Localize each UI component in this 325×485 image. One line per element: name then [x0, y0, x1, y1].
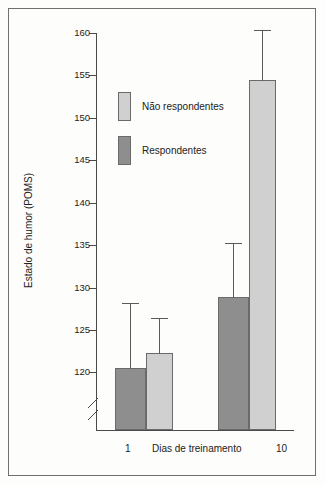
x-axis-title: Dias de treinamento: [152, 443, 242, 454]
y-tick-mark-130: [89, 288, 96, 289]
error-bar-cap-respondentes-day10: [225, 243, 242, 244]
y-tick-mark-145: [89, 160, 96, 161]
figure-container: 160 155 150 145 140 135 130 125 120 Esta…: [0, 0, 325, 485]
y-tick-label-155: 155: [56, 70, 90, 80]
x-tick-label-day1: 1: [125, 443, 131, 454]
axis-break-icon: [85, 396, 109, 422]
y-tick-label-130: 130: [56, 283, 90, 293]
bar-nao-respondentes-day1[interactable]: [146, 353, 173, 430]
error-bar-line-respondentes-day10: [233, 243, 234, 298]
y-tick-label-135: 135: [56, 240, 90, 250]
y-tick-mark-140: [89, 203, 96, 204]
x-tick-label-day10: 10: [276, 443, 287, 454]
legend-swatch-nao-respondentes: [118, 92, 131, 121]
y-tick-mark-150: [89, 118, 96, 119]
error-bar-line-nao-respondentes-day1: [159, 318, 160, 354]
legend-label-nao-respondentes: Não respondentes: [142, 101, 224, 112]
y-tick-mark-155: [89, 75, 96, 76]
plot-area: 160 155 150 145 140 135 130 125 120 Esta…: [0, 0, 325, 485]
legend-label-respondentes: Respondentes: [142, 145, 207, 156]
error-bar-cap-nao-respondentes-day1: [151, 318, 168, 319]
error-bar-line-nao-respondentes-day10: [262, 30, 263, 81]
y-axis-line: [96, 33, 97, 430]
y-tick-mark-125: [89, 330, 96, 331]
y-tick-label-125: 125: [56, 325, 90, 335]
y-tick-mark-160: [89, 33, 96, 34]
y-tick-mark-120: [89, 372, 96, 373]
legend-swatch-respondentes: [118, 136, 131, 165]
y-axis-title: Estado de humor (POMS): [23, 156, 34, 306]
bar-respondentes-day10[interactable]: [218, 297, 249, 430]
y-tick-label-120: 120: [56, 367, 90, 377]
y-tick-label-160: 160: [56, 28, 90, 38]
error-bar-cap-nao-respondentes-day10: [254, 30, 271, 31]
bar-respondentes-day1[interactable]: [115, 368, 146, 430]
bar-nao-respondentes-day10[interactable]: [249, 80, 276, 430]
y-tick-label-140: 140: [56, 198, 90, 208]
y-tick-mark-135: [89, 245, 96, 246]
x-axis-line: [96, 430, 294, 431]
y-tick-label-150: 150: [56, 113, 90, 123]
error-bar-line-respondentes-day1: [130, 303, 131, 369]
y-tick-label-145: 145: [56, 155, 90, 165]
error-bar-cap-respondentes-day1: [122, 303, 139, 304]
